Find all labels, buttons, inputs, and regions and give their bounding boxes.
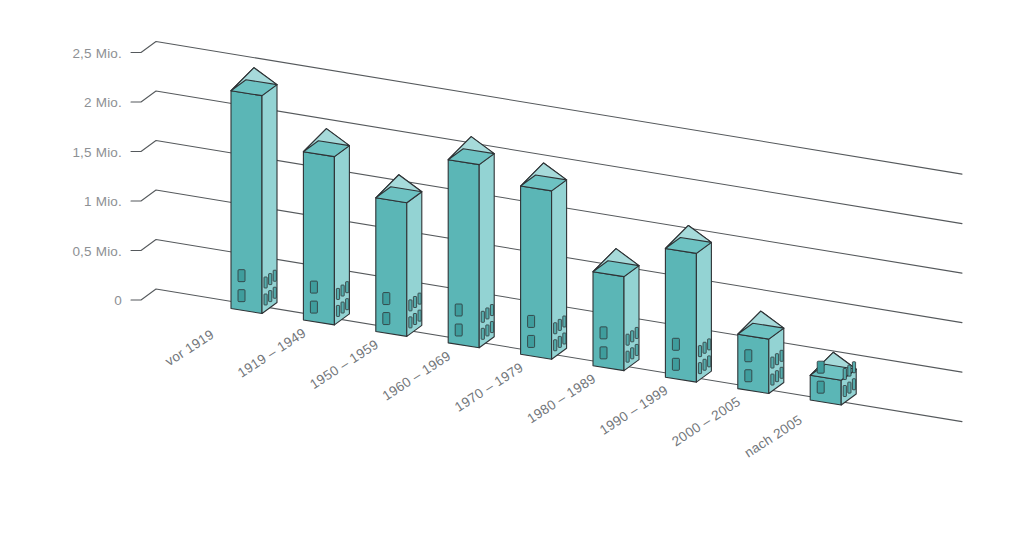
x-axis-tick-label: 1960 – 1969 [380,348,454,403]
building-window [413,313,416,324]
y-axis-tick-labels: 2,5 Mio.2 Mio.1,5 Mio.1 Mio.0,5 Mio.0 [72,46,122,309]
building-window [554,340,557,351]
building-window [780,367,783,378]
building-window [264,294,267,305]
building-window [843,386,846,397]
building-window [635,344,638,355]
building-front-face [448,160,479,348]
building-window [698,363,701,374]
x-axis-tick-label: nach 2005 [742,412,805,460]
x-axis-tick-label: 1970 – 1979 [452,360,526,415]
building-front-face [231,91,262,314]
building-front-face [665,248,696,382]
building-window [817,381,824,393]
building-bar [448,137,494,348]
building-window [635,327,638,338]
building-window [672,358,679,370]
building-window [708,339,711,350]
building-window [346,282,349,293]
building-window [336,288,339,299]
building-window [600,327,607,339]
building-window [310,281,317,293]
building-window [383,313,390,325]
building-window [336,305,339,316]
building-window [563,316,566,327]
building-window [848,365,851,376]
building-window [490,305,493,316]
x-axis-tick-label: 1919 – 1949 [235,325,309,380]
building-window [558,336,561,347]
building-window [745,370,752,382]
building-window [554,323,557,334]
building-window [771,357,774,368]
building-window [528,315,535,327]
building-window [775,371,778,382]
building-window [745,350,752,362]
building-window [409,317,412,328]
building-bar [593,249,639,371]
building-window [409,300,412,311]
building-window [238,270,245,282]
building-window [626,351,629,362]
building-window [600,347,607,359]
building-window [273,270,276,281]
x-axis-tick-label: 1950 – 1959 [307,337,381,392]
building-window [780,350,783,361]
x-axis-tick-label: 1980 – 1989 [524,371,598,426]
building-window [264,277,267,288]
building-window [848,382,851,393]
building-window [341,302,344,313]
building-window [708,356,711,367]
building-window [528,335,535,347]
building-window [486,308,489,319]
building-window [481,328,484,339]
building-window [310,301,317,313]
building-bar [738,311,784,393]
chart-container: 2,5 Mio.2 Mio.1,5 Mio.1 Mio.0,5 Mio.0 vo… [0,0,1011,537]
building-front-face [376,198,407,337]
y-axis-tick-label: 1 Mio. [84,194,122,209]
x-axis-tick-label: vor 1919 [162,327,216,370]
building-window [631,331,634,342]
building-window [418,293,421,304]
building-front-face [303,152,334,325]
building-window [490,322,493,333]
building-bar [521,163,567,359]
building-window [703,342,706,353]
building-window [273,287,276,298]
building-window [455,304,462,316]
building-window [269,291,272,302]
building-window [269,274,272,285]
building-bar [376,175,422,337]
y-axis-tick-label: 0,5 Mio. [72,244,122,259]
building-bar-chart: 2,5 Mio.2 Mio.1,5 Mio.1 Mio.0,5 Mio.0 vo… [0,0,1011,537]
building-window [418,310,421,321]
building-bar [231,68,277,314]
building-window [413,296,416,307]
building-front-face [521,186,552,359]
y-axis-tick-label: 2 Mio. [84,95,122,110]
building-front-face [593,272,624,371]
building-window [341,285,344,296]
y-axis-tick-label: 1,5 Mio. [72,145,122,160]
building-window [455,324,462,336]
x-axis-tick-label: 2000 – 2005 [669,394,743,449]
building-window [843,369,846,380]
y-axis-tick-label: 2,5 Mio. [72,46,122,61]
building-window [852,379,855,390]
y-axis-tick-label: 0 [114,293,122,308]
building-window [481,311,484,322]
building-window [346,299,349,310]
building-window [698,346,701,357]
building-window [771,374,774,385]
building-window [563,333,566,344]
x-axis-tick-label: 1990 – 1999 [597,382,671,437]
building-window [852,362,855,373]
building-bar [810,352,856,405]
building-window [486,325,489,336]
building-window [817,361,824,373]
building-window [558,319,561,330]
building-bar [303,129,349,325]
building-front-face [738,334,769,393]
building-bar [665,225,711,382]
